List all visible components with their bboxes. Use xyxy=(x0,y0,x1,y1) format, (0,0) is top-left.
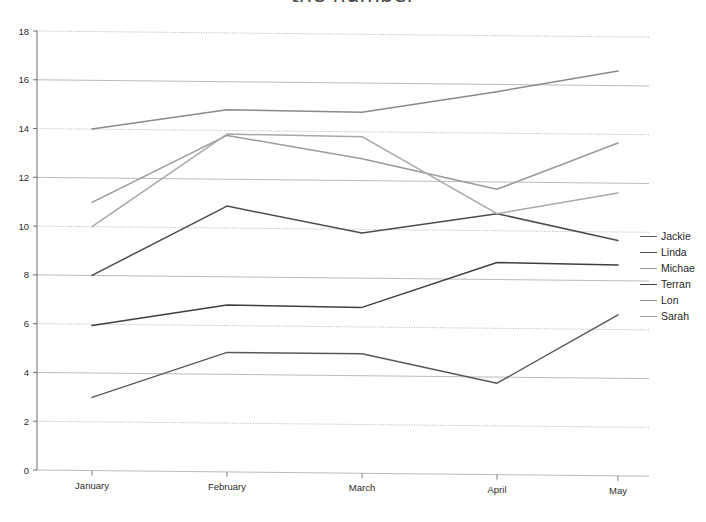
series-line xyxy=(92,315,618,398)
legend-swatch-line-icon xyxy=(640,236,657,237)
legend-swatch-line-icon xyxy=(640,300,657,301)
legend-item[interactable]: Sarah xyxy=(640,308,706,324)
x-axis-tick-label: April xyxy=(487,484,506,495)
y-axis: 024681012141618 xyxy=(18,26,37,476)
gridline xyxy=(37,31,649,37)
gridline xyxy=(37,177,649,183)
y-axis-tick-label: 4 xyxy=(24,367,29,378)
y-axis-tick-label: 10 xyxy=(18,221,29,232)
y-axis-tick-label: 6 xyxy=(24,318,29,329)
series-line xyxy=(92,263,618,326)
chart-legend: JackieLindaMichaeTerranLonSarah xyxy=(640,228,706,324)
y-axis-tick-label: 16 xyxy=(18,74,29,85)
legend-item-label: Jackie xyxy=(661,228,691,244)
x-axis-tick-label: January xyxy=(75,480,109,491)
legend-swatch-line-icon xyxy=(640,316,657,317)
legend-item[interactable]: Terran xyxy=(640,276,706,292)
legend-swatch-line-icon xyxy=(640,252,657,253)
legend-item[interactable]: Lon xyxy=(640,292,706,308)
gridline xyxy=(37,129,649,135)
y-axis-tick-label: 8 xyxy=(24,269,29,280)
gridline xyxy=(37,275,649,281)
gridline xyxy=(37,470,649,476)
series-line xyxy=(92,135,618,202)
series-group xyxy=(92,71,618,397)
legend-item-label: Sarah xyxy=(661,308,689,324)
gridline xyxy=(37,372,649,378)
legend-item-label: Michae xyxy=(661,260,695,276)
legend-swatch-line-icon xyxy=(640,268,657,269)
series-line xyxy=(92,71,618,129)
gridline xyxy=(37,324,649,330)
y-axis-tick-label: 12 xyxy=(18,172,29,183)
x-axis-tick-label: March xyxy=(349,482,375,493)
x-axis: JanuaryFebruaryMarchAprilMay xyxy=(75,471,627,496)
chart-page: the number 024681012141618JanuaryFebruar… xyxy=(0,0,706,522)
legend-item-label: Lon xyxy=(661,292,679,308)
legend-item[interactable]: Michae xyxy=(640,260,706,276)
x-axis-tick-label: May xyxy=(609,485,627,496)
y-axis-tick-label: 14 xyxy=(18,123,29,134)
legend-item[interactable]: Linda xyxy=(640,244,706,260)
legend-item-label: Linda xyxy=(661,244,687,260)
y-axis-tick-label: 0 xyxy=(24,465,29,476)
y-axis-tick-label: 18 xyxy=(18,26,29,37)
legend-item[interactable]: Jackie xyxy=(640,228,706,244)
legend-item-label: Terran xyxy=(661,276,691,292)
series-line xyxy=(92,206,618,275)
gridlines xyxy=(37,31,649,476)
y-axis-tick-label: 2 xyxy=(24,416,29,427)
plot-area: 024681012141618JanuaryFebruaryMarchApril… xyxy=(0,0,706,522)
x-axis-tick-label: February xyxy=(208,481,246,492)
line-chart-svg: 024681012141618JanuaryFebruaryMarchApril… xyxy=(0,0,706,522)
legend-swatch-line-icon xyxy=(640,284,657,285)
gridline xyxy=(37,421,649,427)
